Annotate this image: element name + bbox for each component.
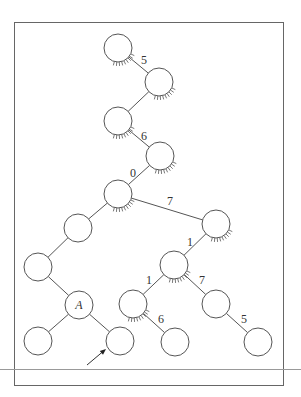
hatch-mark [141,315,143,318]
hatch-mark [128,204,131,207]
hatch-mark [169,279,170,283]
pointer-arrow [87,349,106,365]
hatch-mark [128,318,129,322]
hatch-mark [187,271,191,273]
edge-weight-label: 1 [146,273,152,287]
edge-weight-label: 6 [158,312,164,326]
hatch-mark [222,237,224,241]
hatch-mark [163,96,164,100]
hatch-mark [144,312,147,314]
hatch-mark [137,318,138,322]
hatch-mark [126,132,128,135]
tree-node [24,253,52,281]
tree-node [104,107,132,135]
edge-weight-label: 6 [141,129,147,143]
hatch-mark [131,200,135,202]
hatch-mark [131,54,135,56]
hatch-mark [131,127,135,129]
hatch-mark [122,208,123,212]
tree-node [104,180,132,208]
hatch-mark [211,238,212,242]
tree-edge [128,92,149,112]
hatch-mark [154,96,155,100]
edge-weight-label: 7 [199,273,205,287]
tree-node [146,142,174,170]
tree-diagram: A 560711765 [0,0,301,397]
tree-node [64,214,92,242]
edge-weight-label: 5 [141,53,147,67]
tree-edge [49,314,69,332]
tree-node [106,327,134,355]
hatch-mark [224,235,226,238]
tree-edge [90,314,110,332]
hatch-mark [170,166,173,169]
hatch-mark [185,273,188,275]
tree-node [202,210,230,238]
tree-node [161,328,189,356]
tree-diagram-canvas: A 560711765 [0,0,301,397]
hatch-mark [220,238,221,242]
tree-node [244,328,272,356]
hatch-mark [226,234,229,237]
hatch-mark [122,62,123,66]
edge-weight-label: 1 [187,235,193,249]
hatch-mark [126,59,128,62]
hatch-mark [124,61,126,65]
hatch-mark [178,279,179,283]
hatch-mark [171,164,174,166]
hatch-mark [180,278,182,282]
hatch-mark [124,207,126,211]
edge-weight-label: 7 [167,194,173,208]
hatch-mark [113,135,114,139]
tree-node [119,290,147,318]
arrow-shaft [87,352,103,365]
hatch-mark [139,317,141,321]
hatch-mark [182,276,184,279]
hatch-mark [113,208,114,212]
hatches-layer [113,54,232,322]
tree-node [145,68,173,96]
tree-node [24,327,52,355]
hatch-mark [113,62,114,66]
hatch-mark [155,170,156,174]
hatch-mark [129,202,132,204]
tree-node [104,34,132,62]
tree-edge [89,203,108,219]
nodes-layer: A [24,34,272,356]
edge-labels-layer: 560711765 [130,53,247,326]
hatch-mark [166,169,168,173]
hatch-mark [146,310,150,312]
hatch-mark [227,232,230,234]
hatch-mark [165,95,167,99]
hatch-mark [172,88,176,90]
tree-edge [48,238,68,257]
hatch-mark [229,230,233,232]
tree-edge [48,277,68,296]
hatch-mark [124,134,126,138]
hatch-mark [126,205,128,208]
edge-weight-label: 5 [241,312,247,326]
node-label: A [74,298,83,312]
tree-node [202,290,230,318]
hatch-mark [168,167,170,170]
hatch-mark [173,162,177,164]
hatch-mark [170,90,173,92]
hatch-mark [169,92,172,95]
edge-weight-label: 0 [130,166,136,180]
hatch-mark [164,170,165,174]
hatch-mark [167,93,169,96]
hatch-mark [122,135,123,139]
tree-node [160,251,188,279]
